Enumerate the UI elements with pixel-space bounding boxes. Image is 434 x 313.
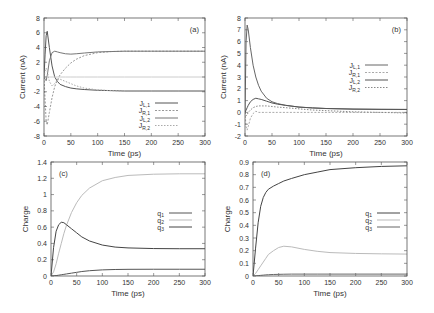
y-tick-label: 0.7 bbox=[239, 184, 249, 191]
panel-label: (d) bbox=[261, 169, 271, 178]
x-tick-label: 250 bbox=[173, 279, 185, 286]
y-tick-label: 0.2 bbox=[37, 256, 47, 263]
y-tick-label: 7 bbox=[237, 26, 241, 33]
x-axis-label: Time (ps) bbox=[111, 289, 145, 298]
x-tick-label: 50 bbox=[73, 279, 81, 286]
series-line-j-r-2 bbox=[245, 106, 407, 116]
legend: q1q2q3 bbox=[157, 210, 192, 233]
legend: JL,1JR,1JL,2JR,2 bbox=[349, 62, 388, 93]
y-axis-label: Current (nA) bbox=[18, 55, 27, 99]
y-tick-label: 0.6 bbox=[37, 224, 47, 231]
y-tick-label: 0 bbox=[237, 109, 241, 116]
x-tick-label: 250 bbox=[375, 279, 387, 286]
x-tick-label: 250 bbox=[172, 139, 184, 146]
x-tick-label: 150 bbox=[122, 279, 134, 286]
series-line-j-l-1 bbox=[44, 31, 205, 91]
legend: JL,1JR,1JL,2JR,2 bbox=[139, 100, 178, 131]
y-tick-label: 0.2 bbox=[239, 247, 249, 254]
x-tick-label: 0 bbox=[251, 279, 255, 286]
x-tick-label: 0 bbox=[49, 279, 53, 286]
series-group bbox=[253, 166, 407, 276]
panel-b: 050100150200250300-2-1012345678Time (ps)… bbox=[219, 15, 413, 159]
y-tick-label: -2 bbox=[34, 88, 40, 95]
y-tick-label: 0.8 bbox=[239, 171, 249, 178]
y-tick-label: 0.3 bbox=[239, 235, 249, 242]
y-tick-label: 0.4 bbox=[239, 222, 249, 229]
x-tick-label: 300 bbox=[199, 139, 211, 146]
x-axis-label: Time (ps) bbox=[309, 149, 343, 158]
legend-label: JR,2 bbox=[139, 122, 151, 131]
y-tick-label: 2 bbox=[237, 85, 241, 92]
x-tick-label: 200 bbox=[350, 279, 362, 286]
series-line-j-r-1 bbox=[44, 51, 205, 125]
y-tick-label: 0 bbox=[36, 74, 40, 81]
x-axis-label: Time (ps) bbox=[313, 289, 347, 298]
x-tick-label: 200 bbox=[148, 279, 160, 286]
x-tick-label: 100 bbox=[92, 139, 104, 146]
x-tick-label: 0 bbox=[243, 139, 247, 146]
series-line-q-3 bbox=[51, 222, 205, 276]
legend: q1q2q3 bbox=[365, 210, 400, 233]
y-tick-label: 0 bbox=[43, 273, 47, 280]
panel-d: 05010015020025030000.10.20.30.40.50.60.7… bbox=[223, 159, 413, 299]
y-tick-label: 8 bbox=[36, 15, 40, 22]
y-tick-label: 0.8 bbox=[37, 207, 47, 214]
y-tick-label: 3 bbox=[237, 74, 241, 81]
y-tick-label: 4 bbox=[237, 62, 241, 69]
y-tick-label: -4 bbox=[34, 103, 40, 110]
plot-frame bbox=[245, 18, 407, 136]
y-tick-label: 1.4 bbox=[37, 159, 47, 166]
y-axis-label: Charge bbox=[223, 205, 232, 232]
x-tick-label: 50 bbox=[67, 139, 75, 146]
y-tick-label: 1.2 bbox=[37, 175, 47, 182]
y-tick-label: 6 bbox=[237, 38, 241, 45]
panel-a: 050100150200250300-8-6-4-202468Time (ps)… bbox=[18, 15, 211, 159]
figure-canvas: 050100150200250300-8-6-4-202468Time (ps)… bbox=[0, 0, 434, 313]
y-tick-label: 5 bbox=[237, 50, 241, 57]
y-tick-label: 0.9 bbox=[239, 159, 249, 166]
y-tick-label: -2 bbox=[235, 133, 241, 140]
series-group bbox=[44, 31, 205, 125]
y-tick-label: 8 bbox=[237, 15, 241, 22]
y-tick-label: -6 bbox=[34, 118, 40, 125]
x-tick-label: 300 bbox=[401, 139, 413, 146]
y-tick-label: 0.5 bbox=[239, 209, 249, 216]
x-tick-label: 100 bbox=[96, 279, 108, 286]
x-tick-label: 200 bbox=[347, 139, 359, 146]
y-tick-label: 6 bbox=[36, 29, 40, 36]
y-tick-label: 0.4 bbox=[37, 240, 47, 247]
y-tick-label: 0 bbox=[245, 273, 249, 280]
y-tick-label: 1 bbox=[43, 191, 47, 198]
series-line-j-r-1 bbox=[245, 111, 407, 130]
series-line-q-2 bbox=[51, 174, 205, 276]
series-group bbox=[51, 174, 205, 276]
x-tick-label: 100 bbox=[293, 139, 305, 146]
x-tick-label: 50 bbox=[275, 279, 283, 286]
y-tick-label: 0.6 bbox=[239, 197, 249, 204]
x-tick-label: 0 bbox=[42, 139, 46, 146]
x-tick-label: 100 bbox=[298, 279, 310, 286]
x-tick-label: 150 bbox=[119, 139, 131, 146]
y-axis-label: Current (nA) bbox=[219, 55, 228, 99]
figure: 050100150200250300-8-6-4-202468Time (ps)… bbox=[0, 0, 434, 313]
panel-label: (a) bbox=[190, 25, 200, 34]
x-tick-label: 150 bbox=[320, 139, 332, 146]
y-tick-label: -1 bbox=[235, 121, 241, 128]
y-tick-label: 2 bbox=[36, 59, 40, 66]
y-axis-label: Charge bbox=[21, 205, 30, 232]
x-tick-label: 200 bbox=[145, 139, 157, 146]
panel-label: (b) bbox=[392, 25, 402, 34]
series-line-q-2 bbox=[253, 246, 407, 276]
series-line-j-l-1 bbox=[245, 25, 407, 112]
x-tick-label: 250 bbox=[374, 139, 386, 146]
legend-label: JR,2 bbox=[349, 84, 361, 93]
panel-label: (c) bbox=[59, 169, 68, 178]
plot-frame bbox=[51, 162, 205, 276]
y-tick-label: 1 bbox=[237, 97, 241, 104]
x-tick-label: 300 bbox=[199, 279, 211, 286]
panel-c: 05010015020025030000.20.40.60.811.21.4Ti… bbox=[21, 159, 211, 299]
x-tick-label: 50 bbox=[268, 139, 276, 146]
y-tick-label: 4 bbox=[36, 44, 40, 51]
y-tick-label: -8 bbox=[34, 133, 40, 140]
x-axis-label: Time (ps) bbox=[108, 149, 142, 158]
